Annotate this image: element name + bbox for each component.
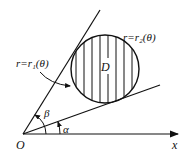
- curve-inner-pointer-arrow: [40, 72, 70, 86]
- label-region-d: D: [100, 60, 110, 74]
- label-angle-alpha: α: [63, 123, 69, 135]
- label-origin: O: [16, 138, 25, 152]
- ray-beta: [23, 10, 100, 134]
- label-angle-beta: β: [43, 107, 50, 119]
- polar-region-diagram: O x D r=r₂(θ) r=r₁(θ) β α: [0, 0, 188, 159]
- label-x-axis: x: [171, 138, 178, 152]
- label-curve-outer: r=r₂(θ): [123, 31, 156, 44]
- angle-alpha-arc: [58, 122, 60, 134]
- label-curve-inner: r=r₁(θ): [16, 57, 49, 70]
